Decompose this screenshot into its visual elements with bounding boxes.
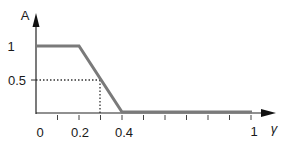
y-axis-arrow-icon — [33, 13, 40, 27]
y-axis-label: A — [21, 8, 30, 23]
x-ticks — [58, 115, 252, 120]
x-tick-label-04: 0.4 — [115, 125, 133, 140]
x-tick-label-0: 0 — [36, 125, 43, 140]
chart: A 1 0.5 0 0.2 0.4 1 γ — [0, 0, 287, 147]
x-tick-label-02: 0.2 — [71, 125, 89, 140]
x-axis-label: γ — [271, 121, 279, 136]
y-tick-label-05: 0.5 — [8, 73, 26, 88]
x-axis-arrow-icon — [261, 109, 276, 117]
x-tick-label-1: 1 — [250, 124, 257, 139]
curve-A — [36, 46, 252, 112]
y-tick-label-1: 1 — [7, 39, 14, 54]
